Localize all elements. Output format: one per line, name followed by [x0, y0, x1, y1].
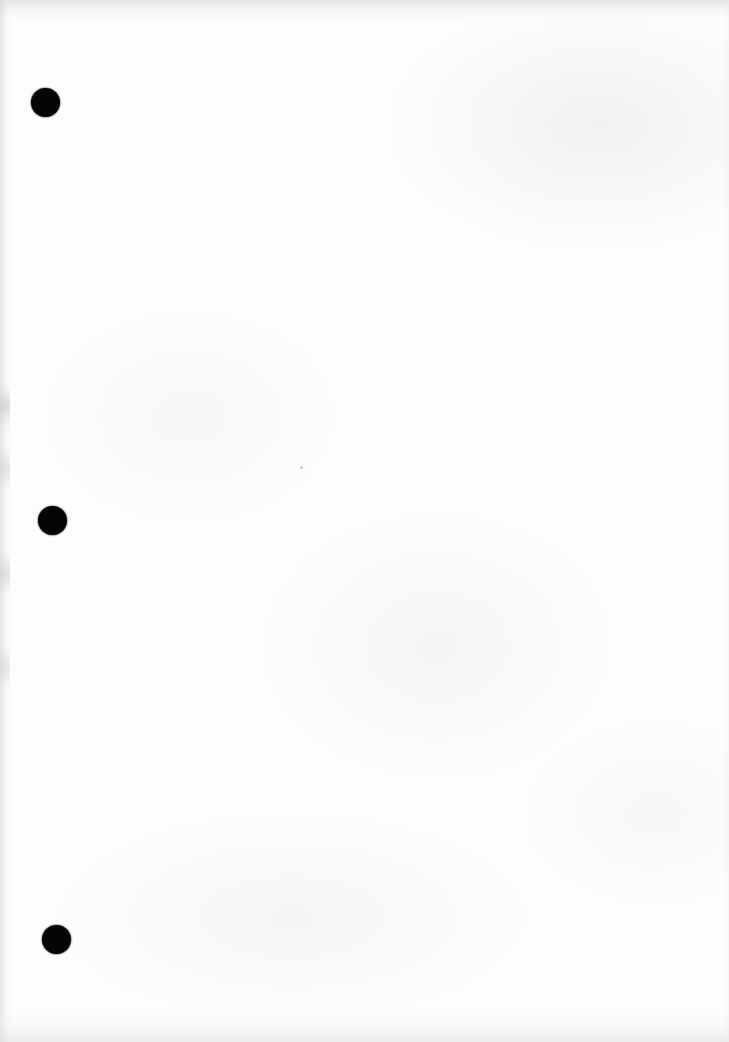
scan-edge-bottom	[0, 1002, 729, 1042]
scanned-page	[0, 0, 729, 1042]
punch-mark-top	[31, 88, 60, 117]
paper-background	[0, 0, 729, 1042]
scan-edge-right	[719, 0, 729, 1042]
punch-mark-middle	[38, 506, 67, 535]
scan-edge-top	[0, 0, 729, 26]
stray-speck	[300, 466, 303, 469]
punch-mark-bottom	[42, 925, 71, 954]
scan-edge-left-smudges	[0, 0, 10, 1042]
